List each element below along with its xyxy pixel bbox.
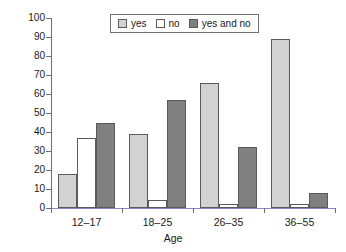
y-tick-label-0: 0 <box>15 203 45 213</box>
x-group-label-36-55: 36–55 <box>265 216 335 228</box>
y-tick-20 <box>46 170 52 171</box>
x-tick-4 <box>335 208 336 213</box>
legend-label-yes-and-no: yes and no <box>202 19 251 29</box>
legend-entry-no: no <box>156 19 180 29</box>
x-axis-title: Age <box>0 232 346 244</box>
y-tick-label-20: 20 <box>15 165 45 175</box>
y-tick-label-10: 10 <box>15 184 45 194</box>
x-tick-0 <box>51 208 52 213</box>
x-group-label-18-25: 18–25 <box>123 216 193 228</box>
y-tick-10 <box>46 189 52 190</box>
legend-swatch-no <box>156 19 165 28</box>
y-tick-label-70: 70 <box>15 70 45 80</box>
bar-12-17-yes-and-no <box>96 123 115 209</box>
y-tick-30 <box>46 151 52 152</box>
y-tick-label-40: 40 <box>15 127 45 137</box>
x-tick-1 <box>122 208 123 213</box>
legend-label-yes: yes <box>131 19 147 29</box>
bar-18-25-yes <box>129 134 148 208</box>
y-tick-label-60: 60 <box>15 89 45 99</box>
y-tick-100 <box>46 18 52 19</box>
bar-chart: Percentage 0102030405060708090100 12–171… <box>0 0 346 252</box>
y-tick-50 <box>46 113 52 114</box>
y-tick-label-90: 90 <box>15 32 45 42</box>
x-tick-3 <box>264 208 265 213</box>
bar-18-25-yes-and-no <box>167 100 186 208</box>
chart-legend: yesnoyes and no <box>110 14 259 33</box>
x-group-label-26-35: 26–35 <box>194 216 264 228</box>
y-tick-label-50: 50 <box>15 108 45 118</box>
bar-26-35-yes-and-no <box>238 147 257 208</box>
y-tick-80 <box>46 56 52 57</box>
bar-12-17-yes <box>58 174 77 208</box>
y-tick-90 <box>46 37 52 38</box>
y-axis-line <box>51 18 52 209</box>
legend-entry-yes: yes <box>118 19 147 29</box>
y-tick-label-80: 80 <box>15 51 45 61</box>
x-tick-2 <box>193 208 194 213</box>
bar-26-35-yes <box>200 83 219 208</box>
bar-36-55-yes <box>271 39 290 208</box>
legend-swatch-yes <box>118 19 127 28</box>
y-tick-label-100: 100 <box>15 13 45 23</box>
y-tick-40 <box>46 132 52 133</box>
y-tick-60 <box>46 94 52 95</box>
bar-18-25-no <box>148 200 167 208</box>
y-tick-70 <box>46 75 52 76</box>
bar-12-17-no <box>77 138 96 208</box>
y-tick-label-30: 30 <box>15 146 45 156</box>
legend-entry-yes-and-no: yes and no <box>189 19 251 29</box>
legend-label-no: no <box>169 19 180 29</box>
legend-swatch-yes-and-no <box>189 19 198 28</box>
bar-36-55-yes-and-no <box>309 193 328 208</box>
x-group-label-12-17: 12–17 <box>52 216 122 228</box>
